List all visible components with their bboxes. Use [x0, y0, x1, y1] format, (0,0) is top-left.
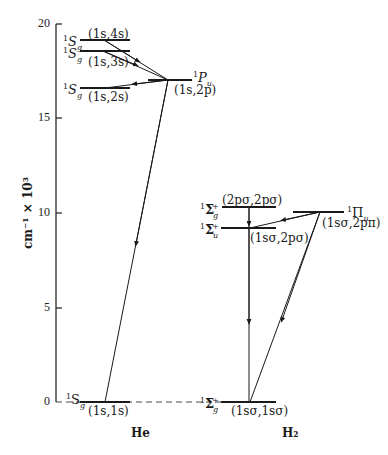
system-label-h2: H₂	[282, 426, 299, 440]
h2-config-1ssig1ssig: (1sσ,1sσ)	[231, 405, 288, 417]
he-config-2s: (1s,2s)	[88, 91, 129, 103]
he-term-1s: 1Sg	[66, 390, 85, 412]
he-config-3s: (1s,3s)	[88, 56, 129, 68]
h2-config-1ssig2psig: (1sσ,2pσ)	[250, 232, 309, 244]
system-label-he: He	[131, 426, 150, 440]
y-axis-label: cm⁻¹ × 10³	[21, 177, 35, 249]
he-config-1s: (1s,1s)	[88, 405, 129, 417]
he-config-2p: (1s,2p)	[174, 84, 216, 96]
y-axis	[56, 24, 62, 402]
h2-term-sigma-u: 1Σ+u	[200, 220, 218, 242]
energy-level-diagram: 20 15 10 5 0 cm⁻¹ × 10³ 1Sg 1Sg 1Sg 1Pu …	[0, 0, 388, 455]
h2-config-2psig2psig: (2pσ,2pσ)	[222, 194, 282, 206]
h2-term-sigma-g-ground: 1Σ+g	[200, 394, 218, 416]
he-term-2s: 1Sg	[63, 80, 82, 102]
tick-5: 5	[30, 300, 50, 315]
he-config-4s: (1s,4s)	[88, 28, 129, 40]
he-term-3s: 1Sg	[63, 44, 82, 66]
tick-20: 20	[30, 16, 50, 31]
tick-15: 15	[30, 110, 50, 125]
tick-0: 0	[30, 394, 50, 409]
h2-config-1ssig2ppi: (1sσ,2pπ)	[322, 217, 380, 229]
h2-term-sigma-g-upper: 1Σ+g	[200, 200, 218, 222]
